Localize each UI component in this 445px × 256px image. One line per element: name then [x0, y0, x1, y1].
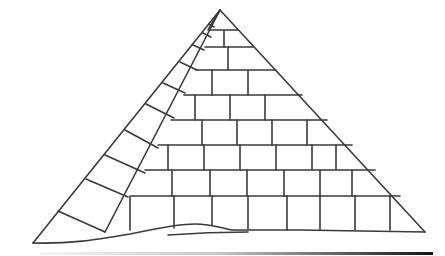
pyramid-outline: [33, 10, 425, 243]
pyramid-illustration: Pyramid line drawing: [0, 0, 445, 256]
ground-bar: [40, 252, 433, 255]
front-face-joints: [130, 30, 390, 230]
pyramid-drawing: [0, 0, 445, 256]
side-face-blocks: [58, 24, 214, 232]
